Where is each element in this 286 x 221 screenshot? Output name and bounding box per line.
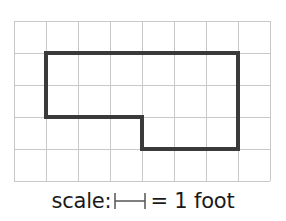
- scale-caption: scale: = 1 foot: [0, 186, 286, 216]
- grid-lines: [14, 21, 271, 182]
- scale-value: = 1 foot: [150, 189, 234, 213]
- scale-label: scale:: [51, 189, 111, 213]
- grid-diagram: [0, 0, 286, 186]
- scale-bar-icon: [114, 192, 146, 210]
